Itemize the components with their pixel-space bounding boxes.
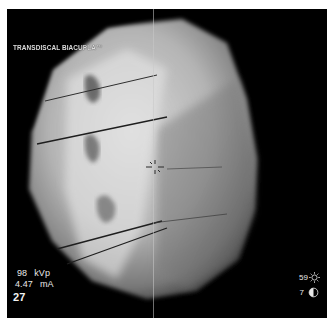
ma-unit: mA [40, 279, 54, 289]
kvp-readout: 98kVp [17, 268, 50, 278]
contrast-half-circle-icon [308, 287, 319, 298]
target-crosshair-icon [146, 160, 164, 174]
frame-number: 27 [13, 291, 25, 303]
kvp-value: 98 [17, 268, 27, 278]
brightness-value: 59 [299, 273, 308, 282]
brightness-indicator: 59 [299, 272, 320, 283]
fluoroscopy-viewer: TRANSDISCAL BIACUPLA™ 98kVp 4.47mA 27 59… [7, 9, 327, 318]
ma-value: 4.47 [15, 279, 33, 289]
ma-readout: 4.47mA [15, 279, 54, 289]
contrast-value: 7 [300, 288, 304, 297]
xray-image [7, 9, 327, 318]
contrast-indicator: 7 [300, 287, 319, 298]
kvp-unit: kVp [34, 268, 50, 278]
procedure-label: TRANSDISCAL BIACUPLA™ [13, 44, 102, 51]
sun-icon [309, 272, 320, 283]
